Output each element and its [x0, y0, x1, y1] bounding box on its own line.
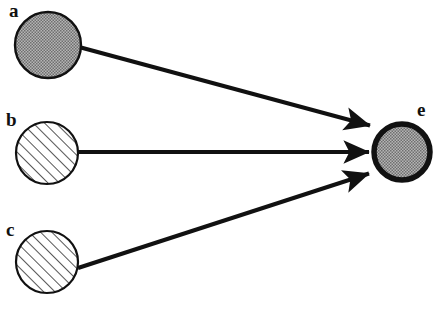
node-b: b [6, 109, 78, 184]
node-c-label: c [6, 219, 14, 240]
node-c: c [6, 219, 78, 293]
diagram-svg: a b c e [0, 0, 436, 315]
node-e-circle [374, 124, 430, 180]
node-a: a [9, 0, 81, 78]
edge-a-to-e [79, 47, 370, 126]
node-a-circle [15, 12, 81, 78]
node-c-circle [16, 231, 78, 293]
node-e-label: e [417, 99, 425, 120]
edge-c-to-e [78, 174, 369, 269]
node-e: e [374, 99, 430, 180]
edge-group [78, 47, 370, 268]
node-a-label: a [9, 0, 19, 21]
node-b-label: b [6, 109, 17, 130]
diagram-canvas: a b c e [0, 0, 436, 315]
node-b-circle [16, 122, 78, 184]
